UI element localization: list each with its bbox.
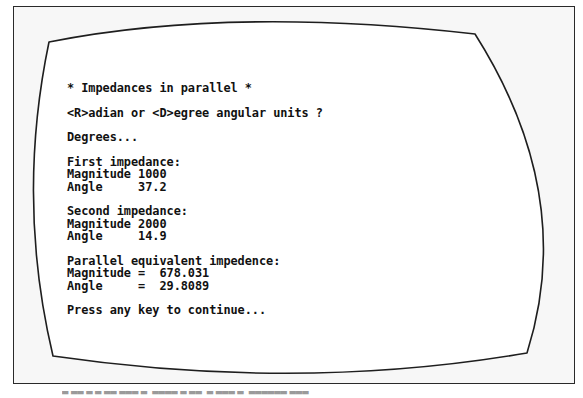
second-impedance-angle: Angle 14.9 bbox=[67, 230, 323, 242]
parallel-result-angle: Angle = 29.8089 bbox=[67, 280, 323, 292]
second-impedance-heading: Second impedance: bbox=[67, 205, 323, 217]
units-selected: Degrees... bbox=[67, 131, 323, 143]
caption-cutoff-marks: ▀ ▀▀ ▀ ▀ ▀▀ ▀▀▀ ▀ ▀▀▀▀ ▀ ▀▀ ▀ ▀▀▀ ▀ ▀▀▀▀… bbox=[62, 391, 322, 398]
first-impedance-angle: Angle 37.2 bbox=[67, 181, 323, 193]
parallel-result-magnitude: Magnitude = 678.031 bbox=[67, 267, 323, 279]
terminal-output: * Impedances in parallel *<R>adian or <D… bbox=[67, 82, 323, 317]
first-impedance-magnitude: Magnitude 1000 bbox=[67, 168, 323, 180]
blank-line bbox=[67, 94, 323, 106]
figure-caption-truncated: ▀ ▀▀ ▀ ▀ ▀▀ ▀▀▀ ▀ ▀▀▀▀ ▀ ▀▀ ▀ ▀▀▀ ▀ ▀▀▀▀… bbox=[62, 391, 322, 398]
continue-prompt: Press any key to continue... bbox=[67, 304, 323, 316]
units-prompt: <R>adian or <D>egree angular units ? bbox=[67, 107, 323, 119]
program-title: * Impedances in parallel * bbox=[67, 82, 323, 94]
blank-line bbox=[67, 242, 323, 254]
